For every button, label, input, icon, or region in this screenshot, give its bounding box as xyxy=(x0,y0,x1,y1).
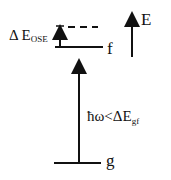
photon-sub: gf xyxy=(132,116,140,126)
delta-e-ose-main: Δ E xyxy=(9,27,31,43)
level-g-label: g xyxy=(106,151,115,170)
photon-main: ħω<ΔE xyxy=(87,108,132,124)
photon-condition-label: ħω<ΔEgf xyxy=(87,108,139,126)
level-f-label: f xyxy=(107,39,113,58)
delta-e-ose-label: Δ EOSE xyxy=(9,27,48,44)
energy-level-diagram: Δ EOSE f g E ħω<ΔEgf xyxy=(0,0,171,180)
delta-e-ose-sub: OSE xyxy=(31,34,49,44)
energy-axis-label: E xyxy=(141,10,151,29)
